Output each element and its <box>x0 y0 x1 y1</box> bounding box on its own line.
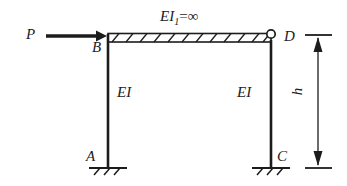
dimension-arrowhead-top <box>314 37 323 52</box>
column-right-stiffness-label: EI <box>237 85 251 100</box>
support-label-C: C <box>277 149 287 164</box>
height-dimension-label: h <box>290 88 305 96</box>
ground-hatch-C <box>257 168 283 175</box>
joint-label-D: D <box>284 29 295 44</box>
fixed-support-A <box>89 168 127 175</box>
height-dimension-h <box>305 35 332 168</box>
joint-label-B: B <box>92 40 101 55</box>
fixed-support-C <box>252 168 290 175</box>
beam-stiffness-symbol: EI <box>160 8 174 24</box>
column-left-stiffness-label: EI <box>117 85 131 100</box>
beam-stiffness-equals: = <box>179 8 187 24</box>
rigid-beam-BD <box>108 34 271 43</box>
ground-hatch-A <box>94 168 120 175</box>
support-label-A: A <box>86 149 95 164</box>
hinge-joint-D <box>267 30 275 38</box>
beam-stiffness-value: ∞ <box>188 8 199 24</box>
load-label-P: P <box>26 27 35 42</box>
dimension-arrowhead-bottom <box>314 151 323 166</box>
beam-stiffness-label: EI1=∞ <box>160 9 198 27</box>
structural-frame-figure: P B D A C EI EI EI1=∞ h <box>0 0 347 186</box>
